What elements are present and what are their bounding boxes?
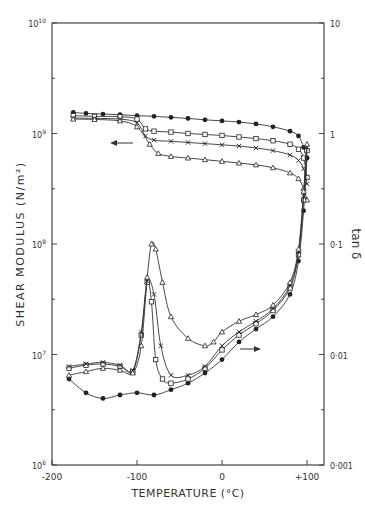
y2-tick-label: 10 <box>330 20 340 29</box>
tan-delta-open-triangle-series <box>66 142 309 378</box>
y2-axis-title: tan δ <box>349 229 363 260</box>
y-tick-label: 107 <box>32 349 46 361</box>
dynamic-mechanical-chart: -200-1000+10010610710810910100·0010·010·… <box>0 0 365 507</box>
y2-tick-label: 1 <box>330 131 335 140</box>
x-axis-title: TEMPERATURE (°C) <box>130 487 244 500</box>
y2-tick-label: 0·01 <box>330 352 348 361</box>
y-tick-label: 109 <box>32 128 46 140</box>
tan-delta-cross-series <box>67 145 309 378</box>
x-tick-label: +100 <box>295 472 320 482</box>
y-tick-label: 1010 <box>28 17 46 29</box>
y2-tick-label: 0·001 <box>330 462 353 471</box>
plot-frame: -200-1000+10010610710810910100·0010·010·… <box>28 17 353 482</box>
x-tick-label: -200 <box>42 472 63 482</box>
arrow-left-icon <box>110 140 133 146</box>
y-tick-label: 108 <box>32 238 46 250</box>
modulus-open-triangle-series <box>71 116 310 202</box>
axis-labels: TEMPERATURE (°C) SHEAR MODULUS (N/m²) ta… <box>14 161 363 500</box>
y2-tick-label: 0·1 <box>330 241 343 250</box>
arrow-right-icon <box>240 346 261 352</box>
x-tick-label: 0 <box>219 472 225 482</box>
y-axis-title: SHEAR MODULUS (N/m²) <box>14 161 27 326</box>
data-curves <box>66 110 309 401</box>
y-tick-label: 106 <box>32 459 46 471</box>
x-tick-label: -100 <box>127 472 148 482</box>
tan-delta-open-square-series <box>67 148 309 385</box>
